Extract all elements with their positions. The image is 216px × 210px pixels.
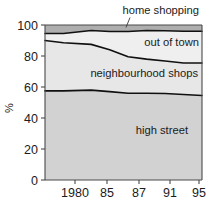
- y-tick-label-40: 40: [24, 112, 38, 126]
- y-tick-label-20: 20: [24, 143, 38, 157]
- stacked-area-chart: 100 80 60 40 20 0 % 1980 85 87 91 95 hom…: [0, 0, 216, 210]
- x-tick-label-91: 91: [163, 186, 177, 200]
- y-tick-label-100: 100: [17, 19, 38, 33]
- x-tick-label-85: 85: [100, 186, 114, 200]
- y-axis-ticks: [41, 25, 45, 180]
- x-tick-label-87: 87: [132, 186, 146, 200]
- series-label-home-shopping: home shopping: [122, 4, 199, 16]
- series-label-neighbourhood-shops: neighbourhood shops: [90, 67, 198, 79]
- x-tick-label-95: 95: [192, 186, 206, 200]
- y-tick-label-60: 60: [24, 81, 38, 95]
- x-axis-ticks: [75, 180, 199, 184]
- y-axis-title: %: [3, 103, 15, 113]
- x-tick-label-1980: 1980: [61, 186, 89, 200]
- y-tick-label-0: 0: [31, 174, 38, 188]
- y-tick-label-80: 80: [24, 50, 38, 64]
- chart-svg: 100 80 60 40 20 0 % 1980 85 87 91 95 hom…: [0, 0, 216, 210]
- series-label-high-street: high street: [136, 124, 189, 136]
- series-label-out-of-town: out of town: [144, 36, 199, 48]
